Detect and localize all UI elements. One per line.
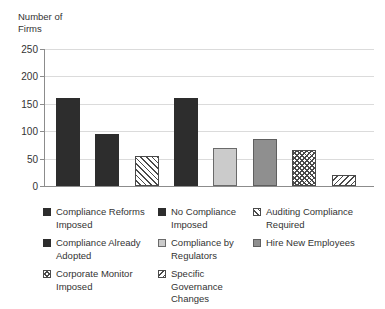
- y-tick-label-150: 150: [12, 99, 38, 110]
- legend-item-specific-governance-changes: Specific Governance Changes: [158, 268, 253, 306]
- legend-item-compliance-already-adopted: Compliance Already Adopted: [43, 237, 158, 262]
- y-tick-label-200: 200: [12, 71, 38, 82]
- bar-compliance-by-regulators: [213, 148, 237, 186]
- legend-item-hire-new-employees: Hire New Employees: [253, 237, 383, 262]
- legend-swatch-solid-dark-icon: [43, 208, 51, 216]
- bar-compliance-already-adopted: [174, 98, 198, 186]
- legend-swatch-crosshatch-icon: [43, 270, 51, 278]
- gridline-150: [45, 104, 374, 105]
- legend-item-compliance-reforms-imposed: Compliance Reforms Imposed: [43, 206, 158, 231]
- legend-swatch-hatch-up-icon: [158, 270, 166, 278]
- legend-item-auditing-compliance-required: Auditing Compliance Required: [253, 206, 383, 231]
- bar-hire-new-employees: [253, 139, 277, 186]
- y-axis-line: [44, 49, 45, 186]
- legend-item-compliance-by-regulators: Compliance by Regulators: [158, 237, 253, 262]
- legend-swatch-hatch-down-icon: [253, 208, 261, 216]
- legend-label: Specific Governance Changes: [171, 268, 253, 306]
- bar-no-compliance-imposed: [95, 134, 119, 186]
- bar-auditing-compliance-required: [135, 156, 159, 186]
- legend-label: Corporate Monitor Imposed: [56, 268, 133, 293]
- legend-label: No Compliance Imposed: [171, 206, 236, 231]
- bar-corporate-monitor-imposed: [292, 150, 316, 186]
- legend-swatch-solid-light-icon: [158, 239, 166, 247]
- y-tick-label-100: 100: [12, 126, 38, 137]
- bar-compliance-reforms-imposed: [56, 98, 80, 186]
- legend-label: Auditing Compliance Required: [266, 206, 353, 231]
- legend-label: Compliance Already Adopted: [56, 237, 141, 262]
- y-tick-label-250: 250: [12, 44, 38, 55]
- legend-item-no-compliance-imposed: No Compliance Imposed: [158, 206, 253, 231]
- gridline-250: [45, 49, 374, 50]
- legend-item-corporate-monitor-imposed: Corporate Monitor Imposed: [43, 268, 158, 306]
- x-axis-line: [44, 186, 374, 187]
- legend-label: Hire New Employees: [266, 237, 355, 250]
- gridline-200: [45, 76, 374, 77]
- legend-label: Compliance Reforms Imposed: [56, 206, 145, 231]
- y-tick-label-0: 0: [12, 181, 38, 192]
- legend: Compliance Reforms ImposedNo Compliance …: [43, 206, 383, 306]
- gridline-100: [45, 131, 374, 132]
- legend-swatch-solid-dark-icon: [43, 239, 51, 247]
- y-tick-label-50: 50: [12, 154, 38, 165]
- bar-chart: Number of Firms 050100150200250 Complian…: [0, 0, 385, 309]
- bar-specific-governance-changes: [332, 175, 356, 186]
- legend-swatch-solid-medium-icon: [253, 239, 261, 247]
- y-axis-title: Number of Firms: [18, 11, 82, 34]
- legend-swatch-solid-dark-icon: [158, 208, 166, 216]
- legend-label: Compliance by Regulators: [171, 237, 234, 262]
